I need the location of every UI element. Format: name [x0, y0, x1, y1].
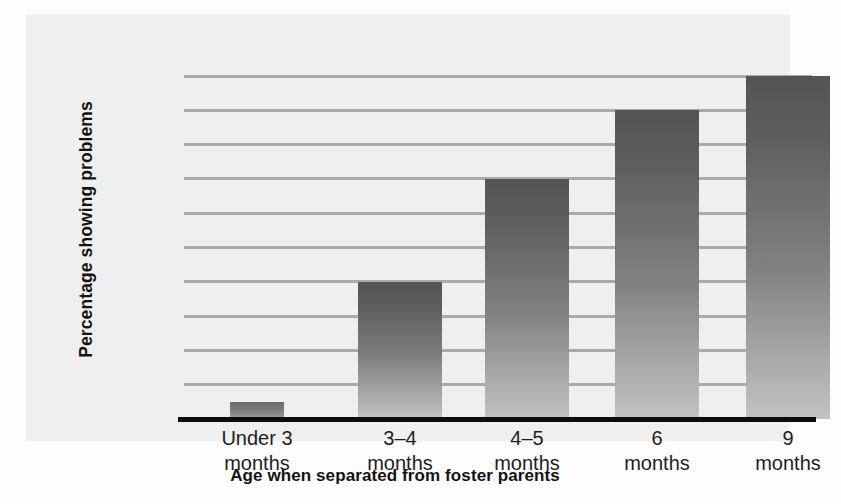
bar — [615, 110, 699, 419]
x-axis-baseline — [178, 417, 816, 422]
x-axis-tick-label-line: 9 — [725, 426, 841, 451]
x-axis-tick-label-line: 3–4 — [337, 426, 463, 451]
chart-panel: Percentage showing problems 010203040506… — [26, 14, 790, 441]
bar — [746, 76, 830, 419]
x-axis-tick-label-line: 4–5 — [464, 426, 590, 451]
x-axis-tick-label-line: Under 3 — [194, 426, 320, 451]
gridline — [184, 75, 812, 78]
bar — [485, 179, 569, 419]
x-axis-title: Age when separated from foster parents — [0, 466, 790, 486]
plot-area: 0102030405060708090100 — [184, 76, 812, 419]
y-axis-title: Percentage showing problems — [76, 60, 97, 400]
gridline — [184, 143, 812, 146]
bar-chart-figure: Percentage showing problems 010203040506… — [0, 0, 841, 504]
gridline — [184, 109, 812, 112]
x-axis-tick-label-line: 6 — [594, 426, 720, 451]
bar — [358, 282, 442, 419]
